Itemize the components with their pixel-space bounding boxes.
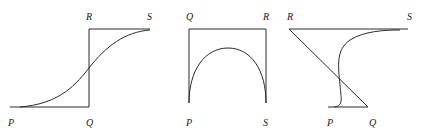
fig2-label-p: P [185, 117, 192, 128]
fig1-curve [20, 30, 150, 107]
fig2-label-r: R [262, 11, 269, 22]
fig1-label-q: Q [86, 117, 94, 128]
fig2-label-s: S [263, 117, 268, 128]
fig3-label-s: S [407, 11, 412, 22]
fig3-label-q: Q [369, 117, 377, 128]
fig1-label-s: S [147, 11, 152, 22]
fig1-path-pqrs [10, 29, 150, 107]
fig2-path-pqrs [189, 29, 266, 103]
figure-3: R S P Q [286, 11, 412, 128]
diagram-canvas: R S P Q Q R P S R S P Q [0, 0, 422, 134]
fig3-label-p: P [326, 117, 333, 128]
fig2-label-q: Q [186, 11, 194, 22]
fig1-label-p: P [7, 117, 14, 128]
fig3-curve [334, 30, 400, 107]
figure-2: Q R P S [185, 11, 269, 128]
fig2-arch-curve [189, 48, 266, 103]
figure-1: R S P Q [7, 11, 152, 128]
fig3-label-r: R [286, 11, 293, 22]
fig1-label-r: R [85, 11, 92, 22]
